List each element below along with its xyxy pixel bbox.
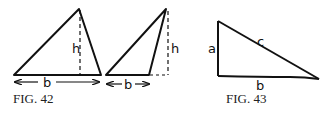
height-label: h xyxy=(171,41,179,56)
side-b-line xyxy=(218,76,319,79)
fig43-right-triangle: a c b xyxy=(208,21,319,93)
side-c-line xyxy=(218,21,319,79)
base-label: b xyxy=(43,75,51,90)
base-label: b xyxy=(124,77,132,92)
fig42-caption: FIG. 42 xyxy=(13,91,53,106)
side-c-label: c xyxy=(257,34,264,49)
fig43-caption: FIG. 43 xyxy=(226,91,266,106)
side-a-label: a xyxy=(208,41,216,56)
fig42-triangle-1: h b xyxy=(14,9,101,90)
height-label: h xyxy=(72,41,80,56)
figure-canvas: h b h b FIG. 42 a c b FIG. 43 xyxy=(0,0,330,113)
fig42-triangle-2: h b xyxy=(106,9,179,92)
